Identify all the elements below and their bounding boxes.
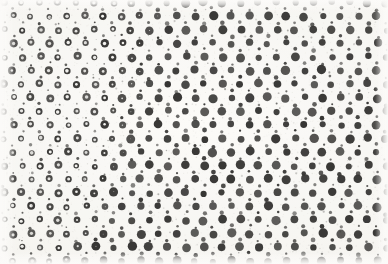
halftone-figure (0, 0, 388, 264)
halftone-dot-lattice (0, 0, 388, 264)
